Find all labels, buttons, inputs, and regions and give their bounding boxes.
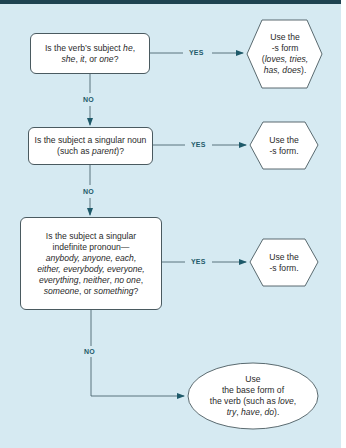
- outcome-text-3: Use the -s form.: [252, 239, 316, 286]
- question-box-1: Is the verb’s subject he, she, it, or on…: [30, 33, 150, 74]
- no-label-3: NO: [84, 348, 95, 355]
- no-label-2: NO: [83, 188, 94, 195]
- yes-label-3: YES: [191, 258, 206, 265]
- outcome-text-1: Use the -s form (loves, tries, has, does…: [250, 20, 320, 88]
- outcome-text-2: Use the -s form.: [252, 122, 316, 169]
- yes-label-1: YES: [189, 49, 204, 56]
- yes-label-2: YES: [191, 141, 206, 148]
- question-box-2: Is the subject a singular noun (such as …: [28, 127, 153, 165]
- outcome-text-4: Use the base form of the verb (such as l…: [190, 363, 316, 429]
- question-box-3: Is the subject a singular indefinite pro…: [20, 217, 162, 310]
- no-label-1: NO: [83, 96, 94, 103]
